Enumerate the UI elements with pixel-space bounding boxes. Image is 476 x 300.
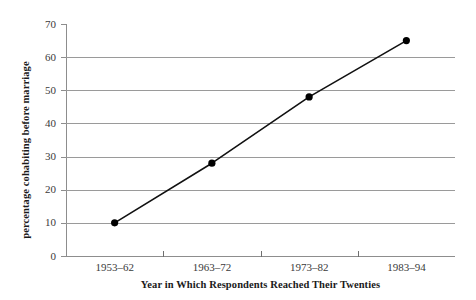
- data-point-1: [208, 160, 215, 167]
- x-axis-title: Year in Which Respondents Reached Their …: [66, 279, 455, 290]
- y-tick-label-60: 60: [30, 52, 56, 63]
- series-line: [115, 41, 407, 223]
- y-tick-label-40: 40: [30, 118, 56, 129]
- y-tick-label-50: 50: [30, 85, 56, 96]
- y-tick-label-30: 30: [30, 151, 56, 162]
- data-point-2: [306, 93, 313, 100]
- line-chart: percentage cohabiting before marriage 01…: [0, 0, 476, 300]
- y-tick-label-70: 70: [30, 19, 56, 30]
- y-tick-label-0: 0: [30, 251, 56, 262]
- y-tick-label-10: 10: [30, 217, 56, 228]
- data-point-0: [111, 219, 118, 226]
- x-tick-label-3: 1983–94: [361, 261, 451, 274]
- data-point-3: [403, 37, 410, 44]
- data-series-line: [66, 24, 455, 257]
- x-tick-label-1: 1963–72: [167, 261, 257, 274]
- y-tick-label-20: 20: [30, 184, 56, 195]
- x-tick-label-0: 1953–62: [70, 261, 160, 274]
- x-tick-label-2: 1973–82: [264, 261, 354, 274]
